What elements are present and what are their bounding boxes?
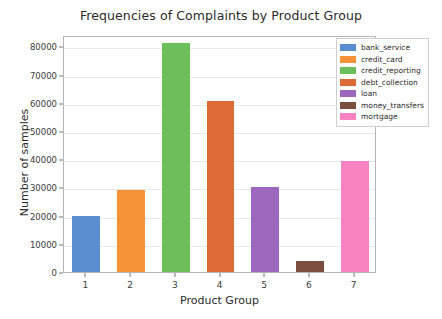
legend-item-credit_reporting[interactable]: credit_reporting (340, 65, 424, 77)
x-tick-label: 7 (351, 280, 357, 290)
legend-swatch-icon (340, 67, 356, 74)
bar-2 (117, 190, 145, 272)
bar-series (64, 37, 375, 272)
x-axis-label: Product Group (63, 294, 376, 307)
x-tick-label: 1 (82, 280, 88, 290)
legend-swatch-icon (340, 56, 356, 63)
legend-item-debt_collection[interactable]: debt_collection (340, 77, 424, 89)
legend-item-loan[interactable]: loan (340, 88, 424, 100)
legend-label: credit_card (361, 56, 403, 64)
bar-3 (162, 43, 190, 272)
bar-7 (341, 161, 369, 272)
x-tick-label: 6 (306, 280, 312, 290)
x-tick-mark (130, 273, 131, 277)
x-tick-mark (174, 273, 175, 277)
y-tick-label: 10000 (30, 240, 57, 250)
legend-swatch-icon (340, 90, 356, 97)
legend-item-money_transfers[interactable]: money_transfers (340, 100, 424, 112)
y-tick-label: 80000 (30, 42, 57, 52)
chart-figure: Frequencies of Complaints by Product Gro… (0, 0, 442, 319)
legend-label: credit_reporting (361, 67, 421, 75)
x-tick-mark (353, 273, 354, 277)
bar-4 (207, 101, 235, 272)
chart-legend: bank_servicecredit_cardcredit_reportingd… (336, 38, 429, 127)
chart-title: Frequencies of Complaints by Product Gro… (0, 8, 442, 23)
x-tick-mark (264, 273, 265, 277)
legend-label: bank_service (361, 44, 410, 52)
legend-item-credit_card[interactable]: credit_card (340, 54, 424, 66)
legend-label: mortgage (361, 113, 398, 121)
bar-5 (251, 187, 279, 272)
legend-label: debt_collection (361, 79, 418, 87)
y-tick-label: 20000 (30, 212, 57, 222)
y-tick-label: 40000 (30, 155, 57, 165)
x-tick-label: 3 (172, 280, 178, 290)
x-tick-label: 2 (127, 280, 133, 290)
plot-area (63, 36, 376, 273)
y-tick-label: 50000 (30, 127, 57, 137)
legend-item-mortgage[interactable]: mortgage (340, 111, 424, 123)
x-tick-mark (308, 273, 309, 277)
legend-label: loan (361, 90, 377, 98)
x-tick-mark (85, 273, 86, 277)
legend-swatch-icon (340, 113, 356, 120)
legend-label: money_transfers (361, 102, 424, 110)
x-tick-label: 5 (261, 280, 267, 290)
y-axis-label: Number of samples (18, 53, 31, 273)
y-tick-label: 70000 (30, 71, 57, 81)
legend-swatch-icon (340, 79, 356, 86)
x-tick-label: 4 (217, 280, 223, 290)
y-tick-label: 0 (52, 268, 57, 278)
bar-1 (72, 216, 100, 272)
y-axis: Number of samples 0100002000030000400005… (0, 36, 63, 273)
legend-swatch-icon (340, 44, 356, 51)
y-tick-label: 30000 (30, 183, 57, 193)
x-tick-mark (219, 273, 220, 277)
legend-swatch-icon (340, 102, 356, 109)
x-axis: 1234567 (63, 273, 376, 295)
y-tick-label: 60000 (30, 99, 57, 109)
bar-6 (296, 261, 324, 272)
legend-item-bank_service[interactable]: bank_service (340, 42, 424, 54)
